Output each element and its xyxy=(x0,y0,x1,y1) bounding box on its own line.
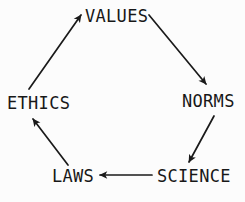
node-label-science: SCIENCE xyxy=(157,168,231,185)
node-label-values: VALUES xyxy=(85,8,148,25)
arrow-values-to-norms xyxy=(149,15,206,84)
arrow-ethics-to-values xyxy=(29,15,81,89)
arrow-norms-to-science xyxy=(189,116,214,162)
cycle-diagram: VALUES NORMS SCIENCE LAWS ETHICS xyxy=(0,0,245,202)
node-label-ethics: ETHICS xyxy=(7,95,70,112)
node-label-norms: NORMS xyxy=(182,93,235,110)
node-label-laws: LAWS xyxy=(52,168,94,185)
arrow-laws-to-ethics xyxy=(33,119,68,165)
